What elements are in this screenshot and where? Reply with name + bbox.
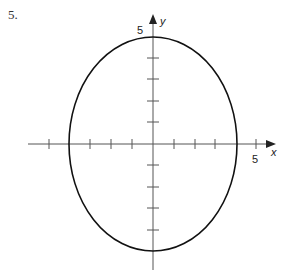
x-tick-label: 5 [252, 153, 258, 165]
ellipse-graph: 5 y 5 x [0, 0, 294, 276]
y-axis-label: y [159, 15, 167, 27]
y-axis [149, 14, 157, 270]
y-axis-arrow-icon [149, 14, 157, 24]
y-tick-label: 5 [137, 24, 143, 36]
x-axis [28, 140, 276, 148]
x-axis-label: x [270, 146, 277, 158]
